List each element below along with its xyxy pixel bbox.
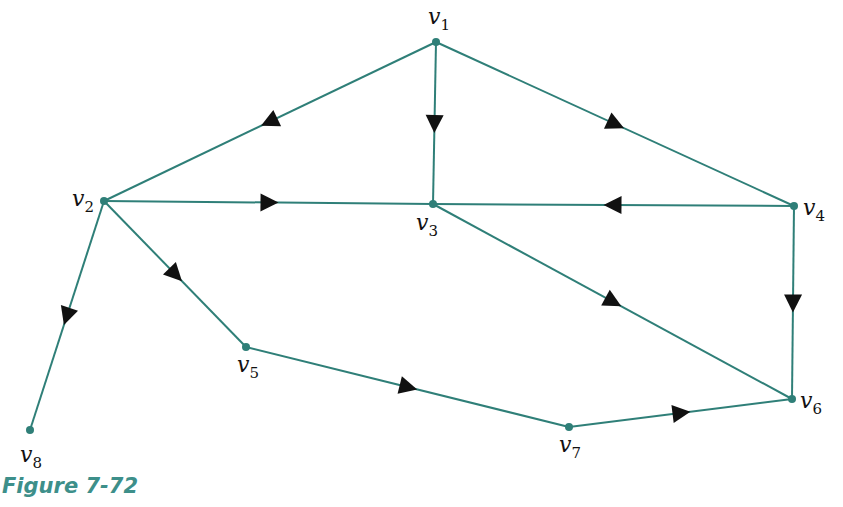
node-label-v4: v4 [803, 197, 825, 224]
graph-canvas [0, 0, 843, 507]
node-label-v7: v7 [559, 434, 581, 461]
node-v1 [432, 38, 440, 46]
label-base: v [20, 442, 32, 467]
label-subscript: 6 [812, 400, 822, 418]
label-subscript: 7 [571, 444, 581, 462]
node-v5 [242, 343, 250, 351]
node-v2 [100, 197, 108, 205]
arrowhead-icon [603, 196, 621, 214]
node-label-v2: v2 [72, 188, 94, 215]
arrowhead-icon [604, 112, 628, 136]
label-base: v [803, 195, 815, 220]
label-subscript: 2 [84, 198, 94, 216]
node-label-v1: v1 [428, 6, 450, 33]
edges-group [30, 42, 794, 430]
label-base: v [428, 4, 440, 29]
node-v3 [429, 200, 437, 208]
node-label-v8: v8 [20, 444, 42, 471]
nodes-group [26, 38, 798, 434]
arrowhead-icon [671, 403, 691, 423]
node-label-v5: v5 [237, 354, 259, 381]
arrowhead-icon [398, 376, 420, 398]
node-v6 [788, 395, 796, 403]
arrowhead-icon [784, 294, 802, 312]
label-base: v [237, 352, 249, 377]
label-base: v [800, 388, 812, 413]
label-subscript: 8 [32, 454, 42, 472]
label-subscript: 4 [815, 207, 825, 225]
label-base: v [72, 186, 84, 211]
arrowhead-icon [257, 110, 281, 134]
node-v8 [26, 426, 34, 434]
arrowhead-icon [425, 115, 443, 133]
arrowhead-icon [260, 193, 278, 211]
figure-caption: Figure 7-72 [2, 474, 138, 498]
label-subscript: 5 [249, 364, 259, 382]
label-subscript: 3 [428, 222, 438, 240]
node-label-v3: v3 [416, 212, 438, 239]
node-label-v6: v6 [800, 390, 822, 417]
arrowhead-icon [601, 290, 625, 314]
label-base: v [416, 210, 428, 235]
node-v7 [565, 423, 573, 431]
label-base: v [559, 432, 571, 457]
node-v4 [790, 202, 798, 210]
label-subscript: 1 [440, 16, 450, 34]
arrowhead-icon [55, 305, 78, 328]
